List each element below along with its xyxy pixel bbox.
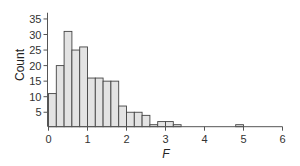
y-tick-label: 10	[29, 91, 41, 103]
y-axis-title: Count	[13, 48, 27, 81]
histogram-bar	[127, 112, 135, 126]
histogram-bar	[103, 81, 111, 127]
x-tick-label: 6	[279, 133, 285, 145]
y-tick-label: 35	[29, 13, 41, 25]
histogram-bar	[95, 78, 103, 127]
histogram-bar	[158, 122, 166, 127]
histogram-bar	[49, 94, 57, 127]
histogram-bar	[142, 115, 150, 126]
x-tick-label: 2	[123, 133, 129, 145]
histogram-bar	[166, 122, 174, 127]
histogram-bar	[134, 112, 142, 126]
y-tick-label: 20	[29, 60, 41, 72]
histogram-bar	[80, 47, 88, 127]
x-tick-label: 3	[162, 133, 168, 145]
histogram-bars	[49, 31, 244, 126]
histogram-bar	[111, 81, 119, 127]
histogram-bar	[72, 50, 80, 127]
y-axis-ticks: 5101520253035	[29, 13, 47, 118]
x-tick-label: 5	[240, 133, 246, 145]
x-tick-label: 0	[45, 133, 51, 145]
y-tick-label: 30	[29, 29, 41, 41]
y-tick-label: 5	[35, 106, 41, 118]
x-axis-ticks: 0123456	[45, 127, 285, 145]
x-axis-title: F	[162, 147, 170, 161]
histogram-chart: 0123456 5101520253035 F Count	[0, 0, 300, 166]
histogram-bar	[64, 31, 72, 126]
x-tick-label: 4	[201, 133, 207, 145]
y-tick-label: 25	[29, 44, 41, 56]
histogram-bar	[56, 66, 64, 127]
x-tick-label: 1	[84, 133, 90, 145]
histogram-bar	[119, 106, 127, 127]
histogram-bar	[88, 78, 96, 127]
y-tick-label: 15	[29, 75, 41, 87]
